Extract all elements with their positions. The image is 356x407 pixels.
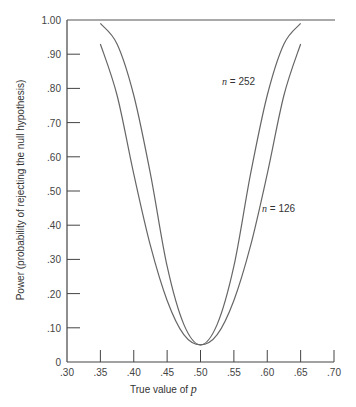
axes: 0.10.20.30.40.50.60.70.80.901.00.30.35.4… [42,15,342,378]
annotation-n126: n = 126 [262,203,296,214]
x-tick-label: .30 [60,367,74,378]
y-axis-label: Power (probability of rejecting the null… [15,80,26,301]
x-tick-label: .55 [227,367,241,378]
y-tick-label: .50 [47,186,61,197]
y-tick-label: .80 [47,83,61,94]
x-axis-label: True value of p [130,382,197,396]
x-tick-label: .35 [93,367,107,378]
x-tick-label: .45 [160,367,174,378]
annotation-n252: n = 252 [222,76,256,87]
y-tick-label: .20 [47,289,61,300]
y-tick-label: .10 [47,323,61,334]
y-tick-label: 1.00 [42,15,62,26]
x-tick-label: .50 [194,367,208,378]
y-tick-label: .70 [47,118,61,129]
power-curve-chart: 0.10.20.30.40.50.60.70.80.901.00.30.35.4… [0,0,356,407]
y-tick-label: .60 [47,152,61,163]
x-tick-label: .65 [294,367,308,378]
curves [100,23,300,344]
curve-n252 [100,23,300,344]
curve-n126 [100,44,300,345]
x-tick-label: .70 [327,367,341,378]
x-tick-label: .40 [127,367,141,378]
y-tick-label: .40 [47,220,61,231]
y-tick-label: .30 [47,254,61,265]
x-tick-label: .60 [260,367,274,378]
y-tick-label: .90 [47,49,61,60]
